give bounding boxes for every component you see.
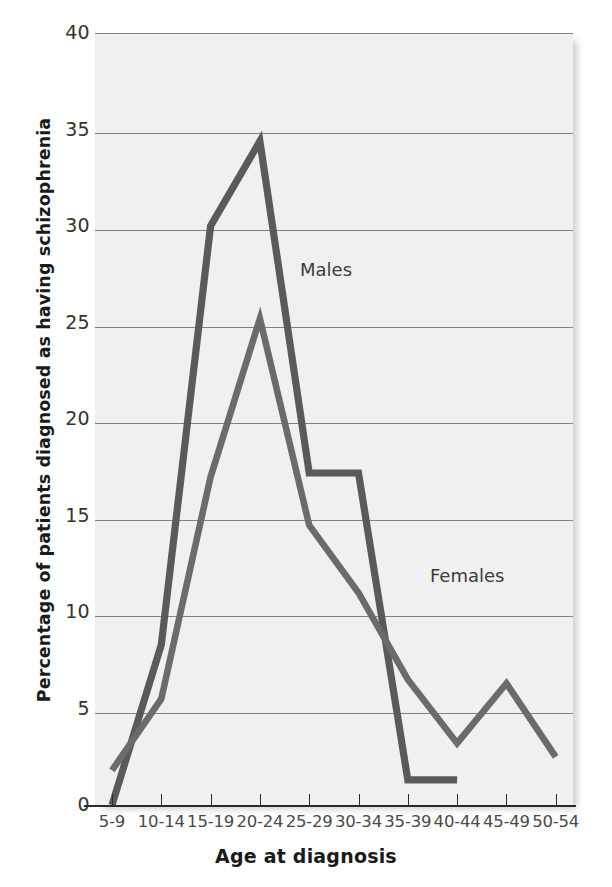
y-axis-title-wrap: Percentage of patients diagnosed as havi… [10, 0, 46, 887]
x-tick-15-19 [211, 794, 212, 805]
x-tick-label-50-54: 50-54 [529, 812, 583, 831]
x-axis-title: Age at diagnosis [0, 845, 612, 867]
x-tick-label-30-34: 30-34 [332, 812, 386, 831]
x-tick-label-25-29: 25-29 [282, 812, 336, 831]
x-axis-line [84, 805, 576, 807]
y-tick-label-20: 20 [56, 407, 90, 429]
x-tick-25-29 [309, 794, 310, 805]
x-tick-label-20-24: 20-24 [233, 812, 287, 831]
y-tick-label-15: 15 [56, 504, 90, 526]
line-series-females [112, 319, 556, 771]
x-tick-label-35-39: 35-39 [381, 812, 435, 831]
x-tick-35-39 [408, 794, 409, 805]
annotation-females: Females [430, 565, 504, 586]
x-tick-label-10-14: 10-14 [134, 812, 188, 831]
x-tick-40-44 [457, 794, 458, 805]
x-tick-50-54 [556, 794, 557, 805]
y-tick-label-35: 35 [56, 118, 90, 140]
x-tick-label-40-44: 40-44 [430, 812, 484, 831]
y-axis-title: Percentage of patients diagnosed as havi… [34, 60, 54, 760]
y-tick-label-10: 10 [56, 600, 90, 622]
x-tick-label-15-19: 15-19 [184, 812, 238, 831]
x-tick-45-49 [506, 794, 507, 805]
x-tick-label-5-9: 5-9 [85, 812, 139, 831]
y-axis-tick-labels: 4035302520151050 [50, 0, 90, 887]
x-tick-10-14 [161, 794, 162, 805]
y-tick-label-40: 40 [56, 21, 90, 43]
x-tick-5-9 [112, 794, 113, 805]
chart-figure: Males Females 4035302520151050 5-910-141… [0, 0, 612, 887]
x-tick-30-34 [359, 794, 360, 805]
y-tick-label-30: 30 [56, 214, 90, 236]
y-tick-label-5: 5 [56, 697, 90, 719]
y-tick-label-25: 25 [56, 311, 90, 333]
annotation-males: Males [300, 259, 352, 280]
x-tick-20-24 [260, 794, 261, 805]
line-series-males [112, 141, 457, 805]
series-lines [0, 0, 612, 887]
x-tick-label-45-49: 45-49 [479, 812, 533, 831]
